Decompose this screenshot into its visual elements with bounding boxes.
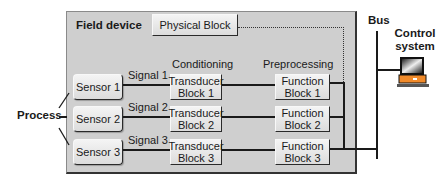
function-block-3: Function Block 3 — [275, 139, 330, 165]
tb1-to-fb1-line — [222, 84, 276, 86]
computer-icon — [396, 56, 432, 92]
transducer-block-3-line2: Block 3 — [178, 152, 214, 164]
preprocessing-header: Preprocessing — [263, 58, 333, 70]
physical-block-link-horizontal — [238, 27, 344, 28]
function-block-1-line1: Function — [281, 75, 323, 87]
transducer-block-1-line1: Transducer — [168, 75, 223, 87]
control-system-line1: Control — [392, 27, 438, 40]
function-collector-line — [343, 82, 345, 149]
transducer-block-1: Transducer Block 1 — [170, 74, 222, 100]
signal-3-line — [123, 149, 171, 151]
physical-block: Physical Block — [152, 14, 238, 36]
signal-1-label: Signal 1 — [128, 69, 168, 81]
sensor-3: Sensor 3 — [73, 139, 123, 165]
conditioning-header: Conditioning — [172, 58, 233, 70]
control-system-line2: system — [392, 40, 438, 53]
function-block-3-line1: Function — [281, 140, 323, 152]
tb3-to-fb3-line — [222, 149, 276, 151]
process-branch-lines — [55, 90, 75, 150]
function-block-2-line1: Function — [281, 107, 323, 119]
bus-line — [376, 31, 378, 159]
sensor-1-label: Sensor 1 — [76, 81, 120, 93]
transducer-block-2: Transducer Block 2 — [170, 106, 222, 132]
transducer-block-2-line1: Transducer — [168, 107, 223, 119]
control-system-label: Control system — [392, 27, 438, 53]
function-block-1: Function Block 1 — [275, 74, 330, 100]
transducer-block-2-line2: Block 2 — [178, 119, 214, 131]
signal-3-label: Signal 3 — [128, 134, 168, 146]
field-device-title: Field device — [76, 19, 142, 31]
signal-2-label: Signal 2 — [128, 101, 168, 113]
transducer-block-3: Transducer Block 3 — [170, 139, 222, 165]
bus-label: Bus — [368, 14, 390, 26]
function-block-1-line2: Block 1 — [284, 87, 320, 99]
sensor-2: Sensor 2 — [73, 106, 123, 132]
transducer-block-3-line1: Transducer — [168, 140, 223, 152]
fb3-to-bus-line — [330, 148, 377, 150]
physical-block-label: Physical Block — [160, 19, 231, 31]
sensor-3-label: Sensor 3 — [76, 146, 120, 158]
physical-block-link-vertical — [343, 27, 344, 82]
signal-1-line — [123, 84, 171, 86]
function-block-2-line2: Block 2 — [284, 119, 320, 131]
sensor-1: Sensor 1 — [73, 74, 123, 100]
function-block-3-line2: Block 3 — [284, 152, 320, 164]
tb2-to-fb2-line — [222, 116, 276, 118]
function-block-2: Function Block 2 — [275, 106, 330, 132]
sensor-2-label: Sensor 2 — [76, 113, 120, 125]
signal-2-line — [123, 116, 171, 118]
transducer-block-1-line2: Block 1 — [178, 87, 214, 99]
